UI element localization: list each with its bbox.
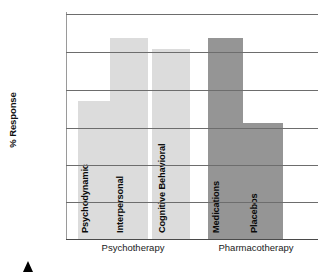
gridline-baseline <box>66 239 318 240</box>
bar-chart: % Response 60% 50% 40% 30% 20% 10% 0% Ps… <box>0 0 331 276</box>
bar-label-psychodynamic: Psychodynamic <box>80 164 90 233</box>
plot-area: Psychodynamic Interpersonal Cognitive Be… <box>66 12 318 240</box>
y-axis-title: % Response <box>7 75 21 165</box>
triangle-marker-icon <box>23 261 33 272</box>
bar-label-cognitive-behavioral: Cognitive Behavioral <box>157 144 167 233</box>
bar-label-medications: Medications <box>211 181 221 233</box>
gridline-30 <box>66 128 318 129</box>
bar-interpersonal: Interpersonal <box>110 38 148 239</box>
group-label-psychotherapy: Psychotherapy <box>78 242 188 253</box>
gridline-20 <box>66 165 318 166</box>
y-axis-line <box>66 12 67 240</box>
gridline-10 <box>66 202 318 203</box>
gridline-40 <box>66 90 318 91</box>
bar-medications: Medications <box>208 38 243 239</box>
bar-psychodynamic: Psychodynamic <box>78 101 110 239</box>
bar-cognitive-behavioral: Cognitive Behavioral <box>152 49 190 239</box>
gridline-50 <box>66 52 318 53</box>
bar-label-placebos: Placebos <box>249 193 259 233</box>
bar-label-interpersonal: Interpersonal <box>115 176 125 233</box>
bar-placebos: Placebos <box>243 123 283 239</box>
gridline-60 <box>66 14 318 15</box>
group-label-pharmacotherapy: Pharmacotherapy <box>196 242 316 253</box>
